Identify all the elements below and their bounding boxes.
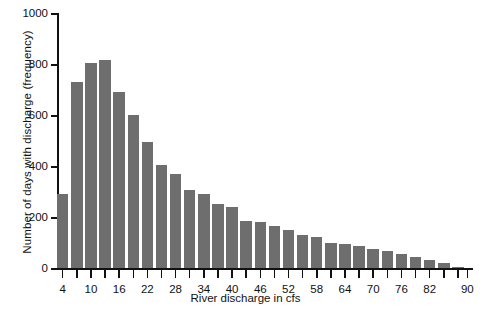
bar [410, 257, 422, 268]
bar [438, 263, 450, 268]
bar [113, 92, 125, 268]
x-axis-tick [189, 269, 191, 278]
x-axis-tick [387, 269, 389, 278]
x-axis-tick [62, 269, 64, 278]
x-axis-tick [372, 269, 374, 278]
bar [353, 246, 365, 268]
y-axis-tick-label: 1000 [22, 7, 48, 19]
bar [367, 249, 379, 268]
x-axis-tick [245, 269, 247, 278]
y-axis-tick [51, 268, 58, 270]
bar [339, 244, 351, 268]
bar [396, 254, 408, 268]
bar [198, 194, 210, 268]
y-axis-tick-label: 800 [29, 58, 48, 70]
bar [170, 174, 182, 268]
bar [297, 235, 309, 268]
x-axis-tick [316, 269, 318, 278]
x-axis-tick [401, 269, 403, 278]
bar [452, 267, 464, 268]
x-axis-tick [104, 269, 106, 278]
bar [57, 194, 69, 268]
bar [311, 237, 323, 268]
plot-area: 0200400600800100041016222834404652586470… [58, 13, 472, 268]
x-axis-tick [133, 269, 135, 278]
y-axis-tick [51, 13, 58, 15]
bar [128, 115, 140, 268]
bar [269, 226, 281, 268]
x-axis-tick [147, 269, 149, 278]
bar [382, 251, 394, 268]
bar [325, 243, 337, 269]
x-axis-tick [467, 269, 469, 278]
bar [184, 190, 196, 268]
bar [226, 207, 238, 268]
bar [212, 204, 224, 268]
y-axis-title: Number of days with discharge (frequency… [21, 7, 33, 277]
x-axis-tick [429, 269, 431, 278]
bar [424, 260, 436, 268]
x-axis-tick [443, 269, 445, 278]
x-axis-tick [302, 269, 304, 278]
bar [71, 82, 83, 268]
x-axis-tick [274, 269, 276, 278]
y-axis-tick-label: 400 [29, 160, 48, 172]
x-axis-tick [457, 269, 459, 278]
x-axis-tick [415, 269, 417, 278]
x-axis-tick [344, 269, 346, 278]
x-axis-tick [260, 269, 262, 278]
x-axis-tick [175, 269, 177, 278]
bar [255, 222, 267, 268]
bar [240, 221, 252, 268]
bar [99, 60, 111, 268]
bar [142, 142, 154, 268]
x-axis-tick [76, 269, 78, 278]
x-axis-tick [288, 269, 290, 278]
x-axis-tick [217, 269, 219, 278]
x-axis-tick [231, 269, 233, 278]
y-axis-tick-label: 0 [42, 262, 48, 274]
bar [85, 63, 97, 268]
x-axis-tick [358, 269, 360, 278]
x-axis-tick [330, 269, 332, 278]
histogram-chart: Number of days with discharge (frequency… [0, 0, 491, 316]
bar [156, 165, 168, 268]
x-axis-tick [161, 269, 163, 278]
y-axis-tick [51, 115, 58, 117]
y-axis-tick [51, 166, 58, 168]
x-axis-tick [118, 269, 120, 278]
x-axis-tick [203, 269, 205, 278]
bar [283, 230, 295, 268]
x-axis-tick [90, 269, 92, 278]
y-axis-tick-label: 200 [29, 211, 48, 223]
y-axis-tick-label: 600 [29, 109, 48, 121]
x-axis-title: River discharge in cfs [0, 292, 491, 304]
y-axis-tick [51, 64, 58, 66]
